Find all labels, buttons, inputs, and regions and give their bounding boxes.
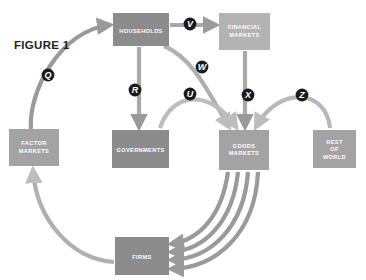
flow-path-firms-to-factor [33,170,114,262]
node-financial-markets-label-line-1: FINANCIAL [228,24,262,30]
node-rest-of-world-label-line-2: OF [330,146,339,152]
node-goods-markets[interactable]: GOODS MARKETS [219,130,269,170]
flow-badge-q-letter: Q [44,70,51,80]
flow-badge-w[interactable]: W [196,61,209,74]
flow-badge-z-letter: Z [298,90,305,100]
node-factor-markets[interactable]: FACTOR MARKETS [9,129,59,166]
flow-badge-u[interactable]: U [184,88,197,101]
flow-badge-z[interactable]: Z [296,89,309,102]
flow-badge-u-letter: U [187,89,194,99]
node-factor-markets-label-line-1: FACTOR [21,140,46,146]
figure-title: FIGURE 1 [14,39,70,51]
flow-badge-v[interactable]: V [184,18,197,31]
flow-path-goods-to-firms-1 [171,172,228,244]
node-rest-of-world-label-line-3: WORLD [323,154,346,160]
node-households-label: HOUSEHOLDS [119,28,162,34]
flow-badge-q[interactable]: Q [42,69,55,82]
flow-arrows-layer [31,25,330,269]
node-rest-of-world[interactable]: REST OF WORLD [313,130,356,168]
node-governments[interactable]: GOVERNMENTS [112,130,169,168]
node-goods-markets-label-line-2: MARKETS [229,150,259,156]
flow-badge-x-letter: X [244,90,252,100]
node-households[interactable]: HOUSEHOLDS [113,13,169,46]
node-factor-markets-label-line-2: MARKETS [19,148,49,154]
flow-path-w [164,46,229,127]
flow-path-z [256,97,330,128]
flow-badge-x[interactable]: X [242,89,255,102]
node-firms-label: FIRMS [132,254,151,260]
flow-badge-v-letter: V [187,19,194,29]
node-financial-markets-label-line-2: MARKETS [229,32,259,38]
node-governments-label: GOVERNMENTS [116,147,164,153]
circular-flow-diagram: HOUSEHOLDS FINANCIAL MARKETS FACTOR MARK… [0,0,366,280]
node-rest-of-world-label-line-1: REST [326,139,343,145]
figure-canvas: HOUSEHOLDS FINANCIAL MARKETS FACTOR MARK… [0,0,366,280]
node-goods-markets-label-line-1: GOODS [233,143,256,149]
flow-badge-r-letter: R [132,85,139,95]
node-financial-markets[interactable]: FINANCIAL MARKETS [219,13,270,50]
node-firms[interactable]: FIRMS [115,237,169,275]
flow-path-u [160,99,236,128]
flow-badge-r[interactable]: R [129,84,142,97]
